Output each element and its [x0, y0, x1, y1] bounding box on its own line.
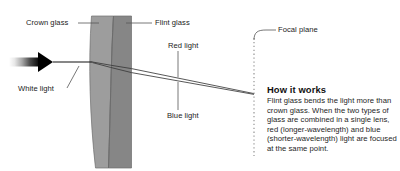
red-light-label: Red light — [168, 41, 198, 50]
right-arrow-icon — [9, 52, 53, 72]
how-it-works-body: Flint glass bends the light more than cr… — [267, 96, 398, 154]
focal-plane-leader — [254, 30, 276, 40]
how-it-works-title: How it works — [267, 84, 398, 95]
flint-glass-label: Flint glass — [155, 18, 190, 27]
white-light-leader — [67, 66, 79, 88]
crown-glass-label: Crown glass — [26, 18, 68, 27]
blue-light-label: Blue light — [167, 111, 199, 120]
white-light-label: White light — [18, 84, 54, 93]
focal-plane-label: Focal plane — [278, 25, 318, 34]
chromatic-aberration-diagram: Crown glass Flint glass Red light Blue l… — [0, 0, 400, 171]
how-it-works-callout: How it works Flint glass bends the light… — [267, 84, 398, 154]
